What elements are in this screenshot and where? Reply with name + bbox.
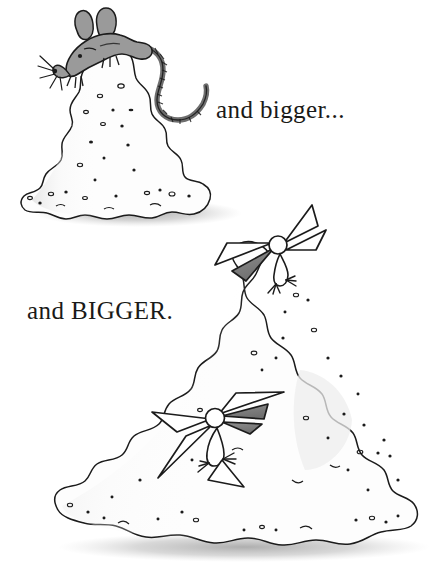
small-mound-scene — [21, 8, 242, 227]
mouse-eye — [78, 54, 82, 58]
caption-and-bigger: and bigger... — [216, 96, 345, 124]
illustration-page: and bigger... and BIGGER. — [0, 0, 442, 582]
caption-and-BIGGER: and BIGGER. — [27, 297, 173, 325]
bird-peak-head — [269, 236, 287, 254]
large-mound-inner-shading — [62, 250, 250, 540]
large-mound-scene — [55, 205, 430, 562]
bird-peak-body — [274, 254, 288, 286]
bird-slope-head — [206, 409, 225, 428]
mouse-tail — [148, 48, 207, 120]
mouse-ear-left — [75, 11, 93, 40]
illustration-artwork — [0, 0, 442, 582]
